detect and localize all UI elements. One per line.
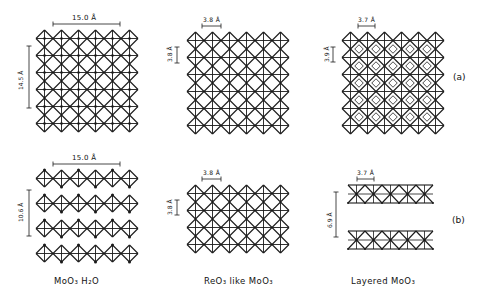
- dimension-label-a3-horizontal: 3.7 Å: [358, 16, 375, 23]
- reo3-like-side-view-lattice: [187, 185, 289, 253]
- dimension-label-b1-horizontal: 15.0 Å: [72, 154, 96, 162]
- dimension-label-b3-horizontal: 3.7 Å: [357, 169, 374, 176]
- moo3-h2o-side-view-chains: [36, 169, 138, 264]
- caption-moo3-h2o: MoO₃ H₂O: [54, 276, 99, 286]
- dimension-label-b2-vertical: 3.8 Å: [166, 199, 173, 215]
- dimension-label-a1-horizontal: 15.0 Å: [72, 14, 96, 22]
- dimension-label-a2-horizontal: 3.8 Å: [203, 16, 220, 23]
- dimension-label-a1-vertical: 14.5 Å: [17, 71, 24, 90]
- dimension-label-b3-vertical: 6.9 Å: [326, 212, 333, 228]
- caption-reo3-like-moo3: ReO₃ like MoO₃: [204, 276, 273, 286]
- dimension-label-b2-horizontal: 3.8 Å: [203, 169, 220, 176]
- dimension-label-a3-vertical: 3.9 Å: [323, 46, 330, 62]
- row-label-b: (b): [452, 215, 465, 225]
- dimension-label-a2-vertical: 3.8 Å: [166, 46, 173, 62]
- row-label-a: (a): [453, 72, 466, 82]
- layered-moo3-top-view-lattice: [342, 32, 444, 134]
- reo3-like-top-view-lattice: [187, 32, 289, 134]
- dimension-label-b1-vertical: 10.6 Å: [17, 203, 24, 222]
- figure-canvas: [0, 0, 484, 297]
- caption-layered-moo3: Layered MoO₃: [351, 276, 415, 286]
- layered-moo3-side-view-layers: [347, 185, 434, 250]
- moo3-h2o-top-view-lattice: [36, 30, 138, 132]
